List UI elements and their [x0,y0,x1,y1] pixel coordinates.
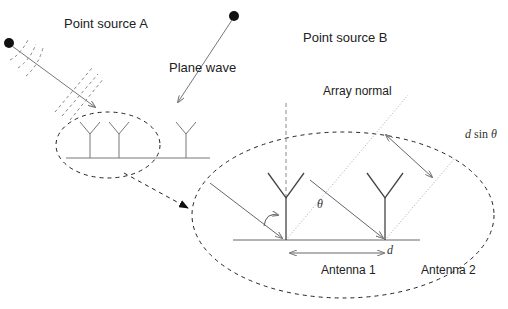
antenna-1-label: Antenna 1 [321,263,376,277]
point-source-a-label: Point source A [64,16,148,31]
array-normal-label: Array normal [323,84,392,98]
antenna-2-label: Antenna 2 [421,263,476,277]
antenna-array-diagram: Point source A Point source B Plane wave… [0,0,508,309]
plane-wave-label: Plane wave [169,60,236,75]
array-normal-line-2 [385,158,455,240]
point-source-a-ray [12,46,95,107]
point-source-b-label: Point source B [303,30,388,45]
array-normal-line-1 [286,95,408,240]
incident-ray-1 [210,183,282,238]
theta-label: θ [317,197,323,211]
small-array-highlight-ellipse [56,112,160,178]
angle-curve-arrow [264,214,278,226]
d-sin-theta-arrow [386,135,432,177]
d-label: d [387,243,394,257]
wavefronts-far [55,68,104,120]
d-sin-theta-label: d sin θ [465,127,497,141]
wavefronts-near [10,40,43,76]
plane-wave-source-dot [229,11,239,21]
small-array [66,122,210,158]
zoom-arrow [124,173,188,208]
